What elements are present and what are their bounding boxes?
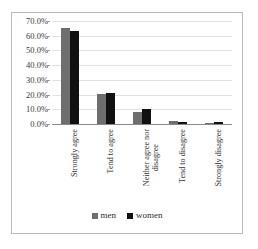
y-tick-label: 20.0% bbox=[26, 91, 48, 100]
plot-area bbox=[52, 21, 232, 125]
x-axis-category: Tend to disagree bbox=[160, 127, 196, 215]
chart-container: 70.0% 60.0% 50.0% 40.0% 30.0% 20.0% 10.0… bbox=[11, 12, 243, 234]
y-tick-mark bbox=[47, 50, 50, 51]
x-axis-label: Tend to agree bbox=[106, 129, 115, 173]
bar-women bbox=[70, 31, 79, 124]
x-axis-label: Strongly disagree bbox=[214, 129, 223, 187]
bar-women bbox=[142, 109, 151, 124]
y-tick-label: 10.0% bbox=[26, 105, 48, 114]
y-tick-mark bbox=[47, 95, 50, 96]
bar-women bbox=[178, 122, 187, 125]
bar-men bbox=[169, 121, 178, 124]
x-axis-category: Neither agree nor disagree bbox=[124, 127, 160, 215]
bar-women bbox=[214, 122, 223, 124]
y-tick-mark bbox=[47, 109, 50, 110]
legend-label: men bbox=[101, 211, 117, 220]
bar-group bbox=[196, 21, 232, 124]
bar-group bbox=[160, 21, 196, 124]
y-tick-label: 60.0% bbox=[26, 32, 48, 41]
x-axis-label: Tend to disagree bbox=[178, 129, 187, 183]
bar-group bbox=[52, 21, 88, 124]
legend-swatch-icon bbox=[127, 213, 133, 219]
bar-men bbox=[205, 123, 214, 124]
y-tick-mark bbox=[47, 80, 50, 81]
y-tick-mark bbox=[47, 65, 50, 66]
bar-group bbox=[124, 21, 160, 124]
y-axis: 70.0% 60.0% 50.0% 40.0% 30.0% 20.0% 10.0… bbox=[12, 13, 50, 133]
y-tick-mark bbox=[47, 124, 50, 125]
y-tick-label: 30.0% bbox=[26, 76, 48, 85]
bar-group bbox=[88, 21, 124, 124]
y-tick-label: 70.0% bbox=[26, 17, 48, 26]
bar-women bbox=[106, 93, 115, 124]
bar-men bbox=[61, 28, 70, 124]
x-axis-category: Strongly disagree bbox=[196, 127, 232, 215]
x-axis-label: Strongly agree bbox=[70, 129, 79, 177]
legend-label: women bbox=[136, 211, 163, 220]
legend-swatch-icon bbox=[92, 213, 98, 219]
bar-men bbox=[97, 94, 106, 124]
legend-item-women[interactable]: women bbox=[127, 211, 163, 220]
legend: men women bbox=[12, 211, 242, 220]
y-tick-label: 0.0% bbox=[30, 120, 48, 129]
y-tick-mark bbox=[47, 36, 50, 37]
x-axis-line bbox=[52, 124, 232, 125]
bar-men bbox=[133, 112, 142, 125]
x-axis: Strongly agree Tend to agree Neither agr… bbox=[52, 127, 232, 215]
y-tick-mark bbox=[47, 21, 50, 22]
y-tick-label: 40.0% bbox=[26, 61, 48, 70]
x-axis-label: Neither agree nor bbox=[142, 129, 151, 186]
y-tick-label: 50.0% bbox=[26, 46, 48, 55]
legend-item-men[interactable]: men bbox=[92, 211, 117, 220]
x-axis-category: Strongly agree bbox=[52, 127, 88, 215]
x-axis-category: Tend to agree bbox=[88, 127, 124, 215]
